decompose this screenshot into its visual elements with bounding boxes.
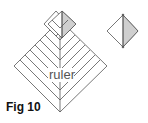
ruler-label: ruler xyxy=(49,67,75,82)
right-diamond xyxy=(107,14,138,48)
figure-caption: Fig 10 xyxy=(6,100,41,114)
